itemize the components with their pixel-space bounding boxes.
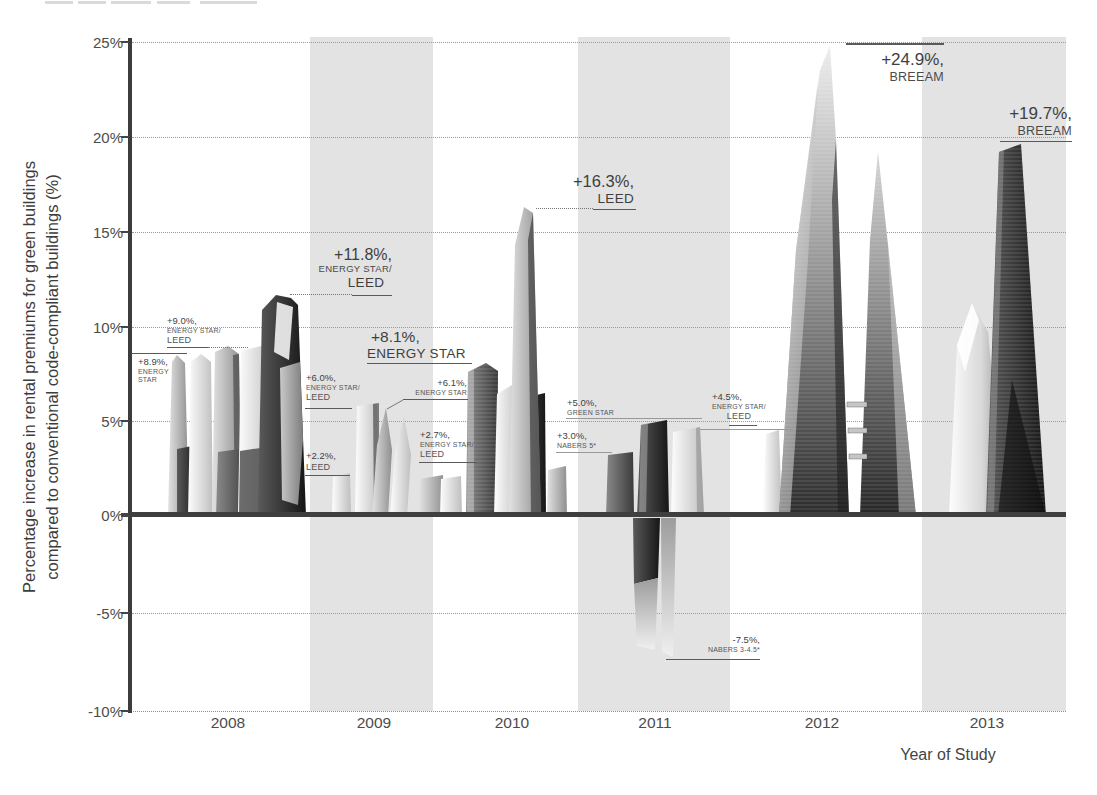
chart-figure: 25% 20% 15% 10% 5% 0% -5% -10% 2008 2009…: [0, 0, 1097, 795]
tower-2011-negative-light: [634, 578, 658, 650]
buildings-2009: [332, 403, 444, 516]
ytick-10: 10%: [67, 319, 123, 336]
tower-2009-leaf2: [390, 417, 411, 516]
tower-2012-sliver45: [763, 430, 782, 516]
xtick-2013: 2013: [952, 714, 1022, 732]
annotation-2009-6.0: +6.0%, ENERGY STAR/ LEED: [306, 373, 360, 402]
leader-line: [666, 659, 760, 660]
leader-line: [419, 462, 477, 463]
building-bars: [0, 0, 1097, 795]
skybridge-1: [847, 402, 867, 407]
y-axis-title: Percentage increase in rental premiums f…: [18, 37, 64, 717]
buildings-2012: [763, 46, 916, 516]
tower-2010-slab: [547, 466, 567, 516]
ytick-15: 15%: [67, 224, 123, 241]
annotation-2011-5.0: +5.0%, GREEN STAR: [567, 398, 614, 417]
annotation-2008-9.0: +9.0%, ENERGY STAR/ LEED: [167, 316, 221, 345]
x-axis-title: Year of Study: [888, 746, 1008, 764]
ytick-5: 5%: [67, 413, 123, 430]
leader-line: [846, 43, 944, 45]
leader-line: [729, 425, 757, 426]
annotation-2012-4.5: +4.5%, ENERGY STAR/ LEED: [712, 392, 766, 421]
leader-line: [290, 294, 352, 295]
ytick-neg5: -5%: [67, 605, 123, 622]
leader-line: [1000, 141, 1072, 142]
tower-2011-negative-col: [661, 518, 676, 657]
annotation-2012-24.9: +24.9%, BREEAM: [878, 50, 944, 84]
annotation-2013-19.7: +19.7%, BREEAM: [1006, 104, 1072, 138]
zero-axis-line: [128, 512, 1066, 517]
leader-line: [556, 452, 612, 453]
leader-line: [367, 363, 472, 364]
ytick-25: 25%: [67, 34, 123, 51]
leader-diagonal-61: [387, 400, 403, 409]
y-axis-title-line2: compared to conventional code-compliant …: [41, 37, 64, 717]
annotation-2008-8.9: +8.9%, ENERGY STAR: [138, 357, 169, 384]
annotation-2010-16.3: +16.3%, LEED: [566, 172, 634, 206]
leader-line: [208, 347, 248, 348]
tower-2011-nabers3: [606, 452, 634, 516]
leader-line: [566, 418, 702, 419]
annotation-2008-11.8: +11.8%, ENERGY STAR/ LEED: [310, 246, 392, 291]
ytick-20: 20%: [67, 129, 123, 146]
y-axis-title-line1: Percentage increase in rental premiums f…: [18, 37, 41, 717]
leader-line: [167, 347, 208, 348]
ytick-neg10: -10%: [67, 703, 123, 720]
tower-2008-b: [188, 354, 213, 516]
ytick-0: 0%: [67, 507, 123, 524]
annotation-2011-3.0: +3.0%, NABERS 5*: [557, 431, 596, 450]
leader-line: [131, 353, 187, 354]
annotation-2009-8.1: +8.1%, ENERGY STAR: [367, 328, 466, 361]
skybridge-3: [849, 454, 867, 459]
annotation-2009-2.7: +2.7%, ENERGY STAR/ LEED: [420, 430, 474, 459]
skybridge-2: [848, 428, 867, 433]
leader-line: [305, 408, 352, 409]
buildings-2010: [440, 207, 567, 516]
tower-2009-leed22: [332, 473, 351, 516]
annotation-2011-neg7.5: -7.5%, NABERS 3-4.5*: [698, 635, 760, 654]
tower-2011-negative-dark: [633, 518, 660, 584]
leader-line: [352, 295, 392, 296]
buildings-2011: [606, 420, 704, 657]
leader-line: [305, 475, 350, 476]
xtick-2008: 2008: [193, 714, 263, 732]
xtick-2012: 2012: [787, 714, 857, 732]
tower-2010-low: [440, 476, 462, 516]
leader-line: [593, 209, 636, 210]
xtick-2010: 2010: [477, 714, 547, 732]
buildings-2013: [949, 144, 1046, 516]
xtick-2009: 2009: [339, 714, 409, 732]
annotation-2009-6.1: +6.1%, ENERGY STAR: [405, 378, 467, 397]
annotation-2009-2.2: +2.2%, LEED: [306, 451, 336, 472]
xtick-2011: 2011: [620, 714, 690, 732]
leader-line: [536, 208, 593, 209]
leader-line: [700, 429, 793, 430]
leader-line: [403, 399, 468, 400]
